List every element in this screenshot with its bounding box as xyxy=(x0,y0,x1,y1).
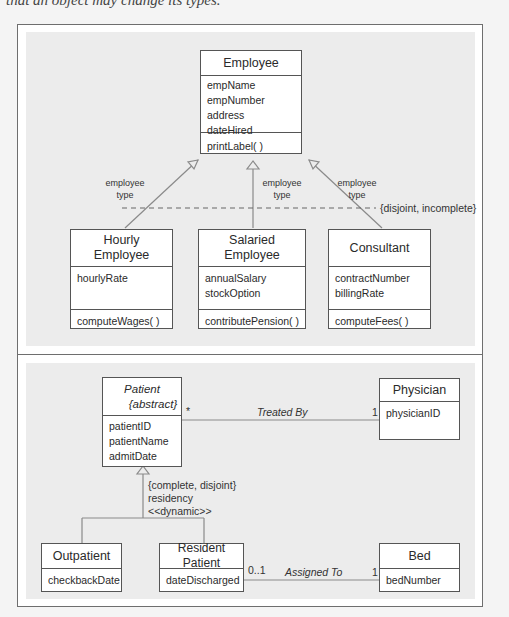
class-name: HourlyEmployee xyxy=(71,230,172,267)
class-name: Consultant xyxy=(329,230,430,267)
class-physician: Physician physicianID xyxy=(379,378,460,440)
class-name: SalariedEmployee xyxy=(199,230,305,267)
attribute: annualSalary xyxy=(205,271,299,286)
class-consultant: Consultant contractNumber billingRate co… xyxy=(328,229,431,329)
class-name: Outpatient xyxy=(42,544,121,569)
attribute: checkbackDate xyxy=(48,573,115,588)
attribute: admitDate xyxy=(109,449,175,464)
attribute: bedNumber xyxy=(386,573,453,588)
attribute: hourlyRate xyxy=(77,271,166,286)
attribute: billingRate xyxy=(335,286,424,301)
class-attributes: dateDischarged xyxy=(160,569,243,592)
class-operations: computeWages( ) xyxy=(71,310,172,333)
class-attributes: contractNumber billingRate xyxy=(329,267,430,310)
attribute: physicianID xyxy=(386,406,453,421)
association-treated-by: Treated By xyxy=(257,405,308,419)
operation: computeFees( ) xyxy=(335,314,424,329)
constraint-label: {disjoint, incomplete} xyxy=(380,201,476,215)
discriminator-label: residency xyxy=(148,492,236,505)
class-name: Resident Patient xyxy=(160,544,243,569)
class-attributes: empName empNumber address dateHired xyxy=(201,76,301,133)
class-name: Physician xyxy=(380,379,459,402)
multiplicity-physician: 1 xyxy=(372,405,378,419)
class-name: Employee xyxy=(201,51,301,76)
class-bed: Bed bedNumber xyxy=(379,543,460,592)
class-attributes: hourlyRate xyxy=(71,267,172,310)
constraint-label: {complete, disjoint} xyxy=(148,479,236,492)
class-employee: Employee empName empNumber address dateH… xyxy=(200,50,302,154)
attribute: patientID xyxy=(109,419,175,434)
generalization-annotation: {complete, disjoint} residency <<dynamic… xyxy=(148,479,236,518)
attribute: empName xyxy=(207,78,295,93)
discriminator-label: employeetype xyxy=(95,177,155,201)
class-attributes: physicianID xyxy=(380,402,459,425)
attribute: empNumber xyxy=(207,93,295,108)
class-attributes: checkbackDate xyxy=(42,569,121,592)
operation: computeWages( ) xyxy=(77,314,166,329)
attribute: address xyxy=(207,108,295,123)
class-attributes: patientID patientName admitDate xyxy=(103,416,181,468)
multiplicity-patient: * xyxy=(186,404,190,418)
class-salaried-employee: SalariedEmployee annualSalary stockOptio… xyxy=(198,229,306,329)
multiplicity-bed: 1 xyxy=(372,565,378,579)
discriminator-label: employeetype xyxy=(252,177,312,201)
multiplicity-resident: 0..1 xyxy=(248,563,266,577)
class-outpatient: Outpatient checkbackDate xyxy=(41,543,122,592)
association-assigned-to: Assigned To xyxy=(285,565,342,579)
attribute: patientName xyxy=(109,434,175,449)
class-resident-patient: Resident Patient dateDischarged xyxy=(159,543,244,592)
discriminator-label: employeetype xyxy=(327,177,387,201)
attribute: contractNumber xyxy=(335,271,424,286)
operation: printLabel( ) xyxy=(207,139,295,154)
class-attributes: annualSalary stockOption xyxy=(199,267,305,310)
class-operations: contributePension( ) xyxy=(199,310,305,333)
attribute: stockOption xyxy=(205,286,299,301)
abstract-stereotype: {abstract} xyxy=(107,397,178,412)
class-operations: computeFees( ) xyxy=(329,310,430,333)
stereotype-label: <<dynamic>> xyxy=(148,505,236,518)
class-name: Bed xyxy=(380,544,459,569)
operation: contributePension( ) xyxy=(205,314,299,329)
attribute: dateDischarged xyxy=(166,573,237,588)
class-name: Patient {abstract} xyxy=(103,378,181,416)
class-attributes: bedNumber xyxy=(380,569,459,592)
class-patient: Patient {abstract} patientID patientName… xyxy=(102,377,182,467)
class-hourly-employee: HourlyEmployee hourlyRate computeWages( … xyxy=(70,229,173,329)
